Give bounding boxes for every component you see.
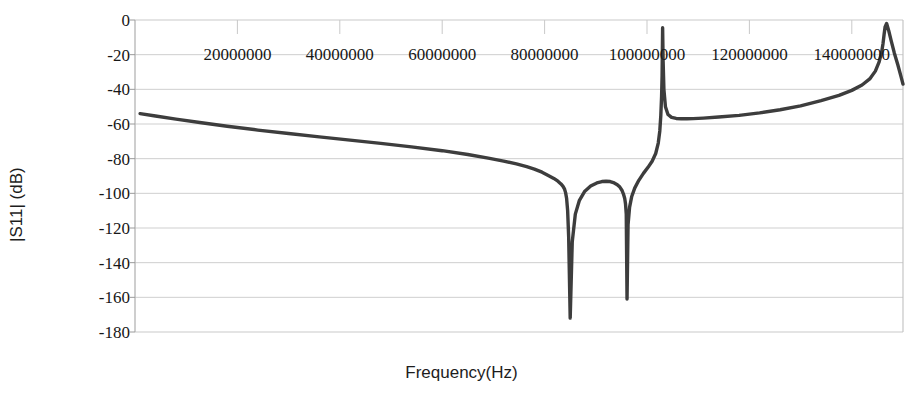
x-axis-tick-label: 20000000 [203, 46, 271, 63]
x-axis-tick-label: 60000000 [408, 46, 476, 63]
x-axis-tick-label: 140000000 [814, 46, 891, 63]
x-axis-title: Frequency(Hz) [0, 363, 923, 383]
chart-container: |S11| (dB) 0-20-40-60-80-100-120-140-160… [0, 0, 923, 406]
x-axis-tick-labels: 2000000040000000600000008000000010000000… [0, 0, 923, 406]
x-axis-tick-label: 40000000 [306, 46, 374, 63]
x-axis-tick-label: 100000000 [609, 46, 686, 63]
x-axis-tick-label: 80000000 [511, 46, 579, 63]
x-axis-tick-label: 120000000 [711, 46, 788, 63]
